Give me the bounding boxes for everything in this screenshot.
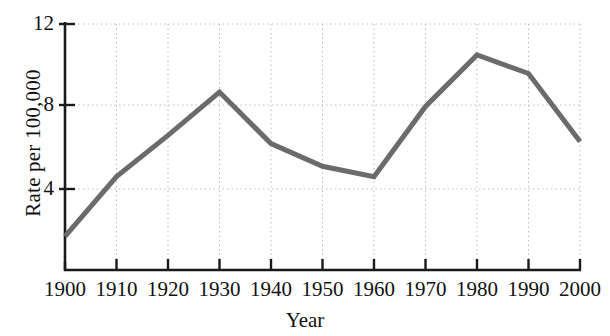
- gridlines-vertical: [117, 24, 581, 270]
- y-tick-marks: [59, 24, 75, 189]
- chart-figure: 12 8 4 1900 1910 1920 1930 1940 1950 196…: [0, 0, 610, 336]
- x-axis-title: Year: [0, 308, 610, 333]
- x-tick-label-2000: 2000: [550, 277, 610, 302]
- x-tick-marks: [65, 259, 580, 270]
- y-axis-title: Rate per 100,000: [16, 8, 50, 278]
